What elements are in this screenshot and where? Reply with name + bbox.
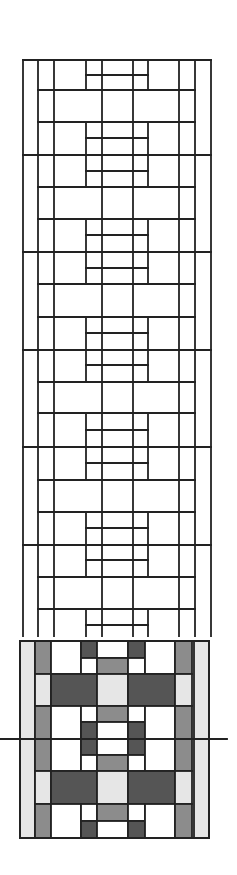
glass-cell-white	[128, 804, 145, 821]
glass-cell-dark	[81, 821, 97, 838]
glass-cell-white	[81, 706, 97, 722]
glass-cell-dark	[81, 641, 97, 658]
line-drawing-pattern	[23, 60, 211, 636]
glass-cell-mid	[175, 641, 192, 674]
glass-cell-mid	[35, 804, 51, 838]
glass-cell-mid	[97, 804, 128, 821]
glass-cell-white	[81, 755, 97, 771]
glass-cell-light	[175, 771, 192, 804]
glass-cell-mid	[97, 755, 128, 771]
glass-cell-light	[175, 674, 192, 706]
glass-cell-white	[145, 804, 175, 838]
glass-cell-white	[51, 641, 81, 674]
glass-cell-white	[128, 755, 145, 771]
glass-cell-white	[97, 821, 128, 838]
glass-cell-light	[97, 674, 128, 706]
glass-cell-white	[81, 804, 97, 821]
glass-cell-mid	[97, 706, 128, 722]
glass-cell-dark	[51, 674, 97, 706]
glass-cell-white	[145, 641, 175, 674]
glass-cell-dark	[128, 641, 145, 658]
glass-cell-dark	[128, 674, 175, 706]
glass-cell-light	[35, 674, 51, 706]
glass-cell-white	[81, 658, 97, 674]
glass-cell-light	[97, 771, 128, 804]
glass-cell-mid	[97, 658, 128, 674]
glass-cell-mid	[175, 804, 192, 838]
glass-cell-dark	[128, 821, 145, 838]
glass-cell-dark	[51, 771, 97, 804]
glass-cell-white	[51, 804, 81, 838]
glass-cell-mid	[35, 641, 51, 674]
glass-cell-dark	[128, 771, 175, 804]
glass-cell-white	[128, 706, 145, 722]
glass-cell-white	[97, 641, 128, 658]
stained-glass-diagram	[0, 0, 237, 875]
glass-cell-white	[128, 658, 145, 674]
glass-cell-light	[35, 771, 51, 804]
